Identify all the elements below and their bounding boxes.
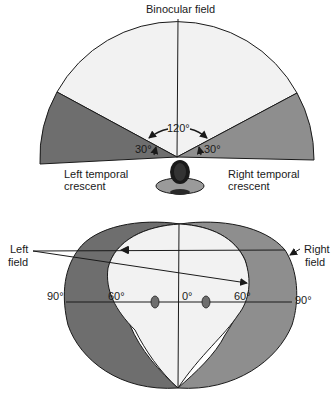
- right-blind-spot: [202, 296, 210, 308]
- left-blind-spot: [151, 296, 159, 308]
- left-field-label-2: field: [8, 256, 28, 268]
- right-temporal-crescent-label-2: crescent: [228, 180, 270, 192]
- angle-120-label: 120°: [167, 122, 190, 134]
- right-field-pointer: [290, 249, 300, 255]
- bottom-visual-field-map: Left field Right field 90° 60° 0° 60° 90…: [8, 222, 330, 388]
- binocular-field-title: Binocular field: [146, 3, 215, 15]
- left-field-label-1: Left: [10, 243, 28, 255]
- head-top-view-icon: [156, 160, 204, 195]
- angle-30-left-label: 30°: [135, 143, 152, 155]
- right-temporal-crescent-label-1: Right temporal: [228, 168, 300, 180]
- angle-30-right-label: 30°: [204, 143, 221, 155]
- tick-right-60: 60°: [234, 290, 251, 302]
- right-field-label-1: Right: [304, 243, 330, 255]
- top-binocular-diagram: 120° 30° 30° Binocular field Left tempor…: [40, 3, 314, 195]
- visual-field-diagram: 120° 30° 30° Binocular field Left tempor…: [0, 0, 335, 404]
- right-field-label-2: field: [305, 256, 325, 268]
- left-temporal-crescent-label-1: Left temporal: [64, 168, 128, 180]
- tick-center-0: 0°: [182, 290, 193, 302]
- tick-left-60: 60°: [108, 290, 125, 302]
- tick-right-90: 90°: [295, 294, 312, 306]
- tick-left-90: 90°: [47, 290, 64, 302]
- left-temporal-crescent-label-2: crescent: [64, 180, 106, 192]
